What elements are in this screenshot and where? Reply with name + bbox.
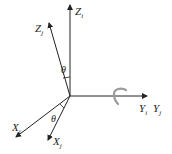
y-j-label: Yj bbox=[153, 102, 161, 117]
x-i-label: Xi bbox=[11, 121, 21, 136]
z-angle-label: θ bbox=[61, 64, 66, 75]
y-i-label: Yi bbox=[139, 102, 147, 117]
z-i-label: Zi bbox=[75, 5, 83, 20]
x-angle-label: θ bbox=[51, 113, 56, 124]
z-j-label: Zj bbox=[35, 22, 43, 37]
z-j-axis bbox=[49, 23, 70, 96]
x-i-axis bbox=[16, 96, 70, 137]
coordinate-frame-diagram: Zi Zj θ Yi Yj Xi Xj θ bbox=[0, 0, 172, 154]
x-angle-arc bbox=[60, 104, 64, 108]
x-j-label: Xj bbox=[52, 135, 62, 150]
z-angle-arc bbox=[63, 77, 70, 78]
